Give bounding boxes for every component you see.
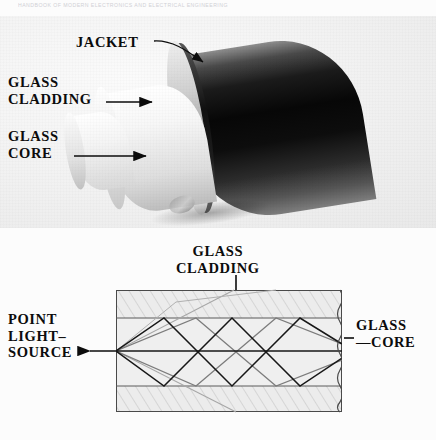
diagram-leader-lines — [0, 0, 436, 440]
figure-page: HANDBOOK OF MODERN ELECTRONICS AND ELECT… — [0, 0, 436, 440]
